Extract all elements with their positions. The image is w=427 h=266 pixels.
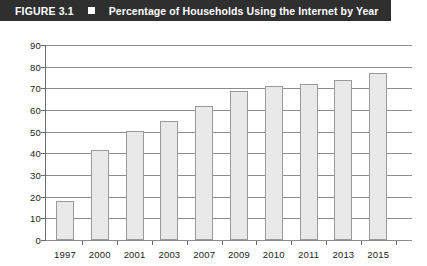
bar xyxy=(56,201,74,240)
figure-title-bar: FIGURE 3.1 Percentage of Households Usin… xyxy=(0,0,391,21)
bar xyxy=(334,80,352,240)
bar xyxy=(369,73,387,240)
figure-caption-label: Percentage of Households Using the Inter… xyxy=(109,5,379,17)
x-axis-tick-mark xyxy=(291,241,292,245)
y-axis-tick-label: 50 xyxy=(11,126,41,137)
x-axis-tick-mark xyxy=(82,241,83,245)
x-axis-tick-label: 1997 xyxy=(54,249,76,260)
bar xyxy=(160,121,178,240)
gridline xyxy=(46,67,412,68)
x-axis-tick-mark xyxy=(152,241,153,245)
bar xyxy=(265,86,283,240)
x-axis-tick-label: 2001 xyxy=(124,249,146,260)
bar xyxy=(91,150,109,240)
plot-area xyxy=(46,45,412,240)
x-axis-tick-label: 2011 xyxy=(298,249,319,260)
x-axis-tick-label: 2013 xyxy=(332,249,354,260)
square-bullet-icon xyxy=(88,7,95,14)
y-axis-tick-label: 70 xyxy=(11,83,41,94)
x-axis-tick-label: 2009 xyxy=(228,249,250,260)
x-axis-tick-mark xyxy=(361,241,362,245)
x-axis-tick-mark xyxy=(117,241,118,245)
x-axis-tick-label: 2007 xyxy=(193,249,215,260)
bar xyxy=(126,131,144,240)
bar xyxy=(300,84,318,240)
y-axis-tick-label: 90 xyxy=(11,40,41,51)
y-axis-tick-label: 60 xyxy=(11,105,41,116)
figure-number-label: FIGURE 3.1 xyxy=(15,5,74,17)
gridline xyxy=(46,240,412,241)
y-axis-tick-label: 40 xyxy=(11,148,41,159)
x-axis-tick-mark xyxy=(222,241,223,245)
y-axis-tick-label: 10 xyxy=(11,213,41,224)
gridline xyxy=(46,45,412,46)
y-axis-tick-label: 20 xyxy=(11,191,41,202)
x-axis-tick-label: 2000 xyxy=(89,249,111,260)
y-axis-tick-label: 80 xyxy=(11,61,41,72)
x-axis-tick-mark xyxy=(256,241,257,245)
bar xyxy=(195,106,213,240)
x-axis-tick-mark xyxy=(396,241,397,245)
x-axis-tick-mark xyxy=(326,241,327,245)
gridline xyxy=(46,88,412,89)
y-axis-tick-label: 30 xyxy=(11,170,41,181)
x-axis-tick-label: 2010 xyxy=(263,249,285,260)
y-axis-tick-label: 0 xyxy=(11,235,41,246)
y-axis-tick-labels: 9080706050403020100 xyxy=(8,45,41,240)
x-axis-tick-label: 2015 xyxy=(367,249,389,260)
x-axis-tick-mark xyxy=(187,241,188,245)
bar-chart: 9080706050403020100 19972000200120032007… xyxy=(0,21,427,266)
x-axis-tick-label: 2003 xyxy=(158,249,180,260)
gridline xyxy=(46,132,412,133)
gridline xyxy=(46,110,412,111)
bar xyxy=(230,91,248,241)
